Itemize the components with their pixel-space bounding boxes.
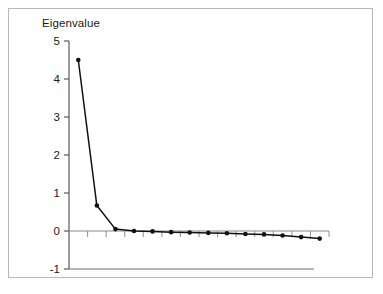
data-point-marker: [243, 232, 248, 237]
y-axis: [64, 41, 69, 269]
data-point-marker: [187, 230, 192, 235]
y-tick-label: 3: [54, 111, 60, 123]
data-point-marker: [262, 232, 267, 237]
scree-plot-svg: -1012345: [9, 9, 374, 279]
y-tick-label: 1: [54, 187, 60, 199]
data-point-marker: [299, 235, 304, 240]
screenshot-root: Eigenvalue -1012345: [0, 0, 383, 294]
y-tick-label: -1: [50, 263, 60, 275]
data-point-marker: [280, 233, 285, 238]
data-point-marker: [225, 231, 230, 236]
y-tick-label: 4: [54, 73, 61, 85]
data-point-marker: [206, 231, 211, 236]
y-tick-label: 5: [54, 35, 60, 47]
data-point-marker: [317, 236, 322, 241]
y-tick-labels: -1012345: [50, 35, 61, 275]
figure-frame: Eigenvalue -1012345: [8, 8, 373, 278]
data-point-marker: [76, 58, 81, 63]
data-point-marker: [150, 229, 155, 234]
y-tick-label: 2: [54, 149, 60, 161]
data-point-marker: [169, 230, 174, 235]
series-line: [78, 60, 319, 239]
data-point-marker: [132, 229, 137, 234]
plot-area: Eigenvalue -1012345: [9, 9, 374, 279]
data-point-marker: [113, 227, 118, 232]
y-tick-label: 0: [54, 225, 60, 237]
data-point-marker: [95, 203, 100, 208]
data-series-eigenvalue: [76, 58, 322, 241]
